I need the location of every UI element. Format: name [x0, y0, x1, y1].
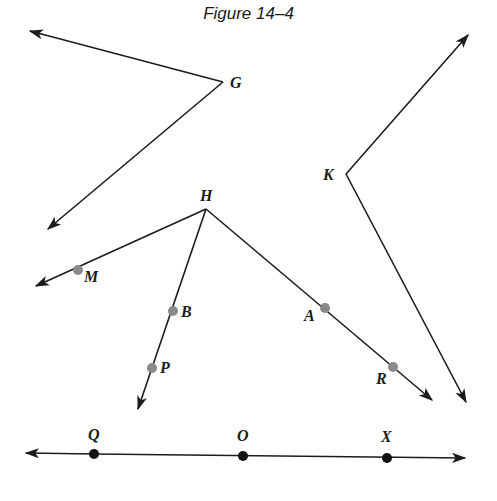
- label-r: R: [375, 370, 387, 387]
- label-h: H: [199, 187, 213, 204]
- ray-g-upper: [30, 31, 223, 82]
- point-o: [238, 451, 248, 461]
- label-m: M: [83, 268, 99, 285]
- point-m: [73, 265, 83, 275]
- label-g: G: [230, 74, 242, 91]
- label-q: Q: [88, 426, 100, 443]
- point-p: [147, 363, 157, 373]
- ray-hm: [36, 209, 206, 286]
- label-x: X: [380, 428, 392, 445]
- line-qox: Q O X: [26, 426, 465, 463]
- ray-hr: [206, 209, 432, 400]
- ray-k-upper: [346, 35, 468, 174]
- geometry-diagram: G K H M B P A R Q O X: [0, 0, 497, 501]
- label-o: O: [237, 427, 249, 444]
- point-x: [382, 453, 392, 463]
- point-b: [168, 306, 178, 316]
- label-a: A: [303, 307, 315, 324]
- ray-g-lower: [48, 82, 223, 229]
- label-b: B: [180, 303, 192, 320]
- label-k: K: [322, 166, 335, 183]
- ray-k-lower: [346, 174, 466, 402]
- point-r: [388, 362, 398, 372]
- label-p: P: [159, 359, 170, 376]
- line-right-arrow: [94, 454, 465, 458]
- point-a: [320, 303, 330, 313]
- point-q: [89, 449, 99, 459]
- line-left-arrow: [26, 453, 94, 454]
- angle-k: K: [322, 35, 468, 402]
- angle-h: H M B P A R: [36, 187, 432, 409]
